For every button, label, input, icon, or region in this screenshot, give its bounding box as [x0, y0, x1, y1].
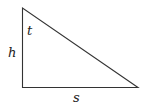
- base-label-s: s: [73, 90, 80, 105]
- triangle-shape: [23, 8, 139, 88]
- angle-label-t: t: [27, 23, 33, 38]
- height-label-h: h: [8, 45, 16, 60]
- right-triangle-diagram: t h s: [0, 0, 145, 106]
